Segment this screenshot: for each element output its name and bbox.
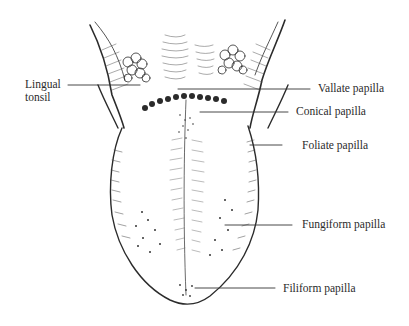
label-lingual-tonsil-line2: tonsil: [25, 91, 51, 104]
label-vallate-papilla: Vallate papilla: [318, 82, 384, 95]
label-fungiform-papilla: Fungiform papilla: [302, 218, 385, 231]
label-lingual-tonsil-line1: Lingual: [25, 78, 61, 91]
label-conical-papilla: Conical papilla: [296, 105, 366, 118]
tongue-illustration: [0, 0, 409, 326]
label-foliate-papilla: Foliate papilla: [302, 139, 368, 152]
label-filiform-papilla: Filiform papilla: [283, 282, 356, 295]
